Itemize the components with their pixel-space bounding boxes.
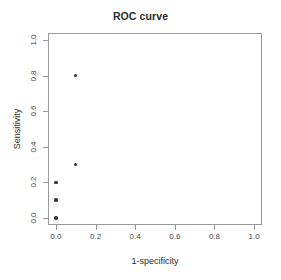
x-axis-tick (56, 225, 57, 230)
x-axis-label: 1-specificity (48, 256, 262, 266)
y-axis-tick-label: 0.8 (29, 70, 38, 81)
x-axis-tick (96, 225, 97, 230)
x-axis-tick (175, 225, 176, 230)
x-axis-tick (254, 225, 255, 230)
y-axis-tick (43, 40, 48, 41)
x-axis-tick-label: 0.4 (130, 232, 141, 241)
page-title: ROC curve (0, 10, 281, 22)
y-axis-tick-label: 0.2 (29, 177, 38, 188)
plot-frame (48, 33, 262, 225)
y-axis-tick-label: 0.4 (29, 141, 38, 152)
roc-curve-plot: ROC curve 0.00.20.40.60.81.0 0.00.20.40.… (0, 0, 281, 280)
x-axis-tick-label: 0.0 (50, 232, 61, 241)
x-axis-tick-label: 0.8 (209, 232, 220, 241)
x-axis-tick-label: 0.2 (90, 232, 101, 241)
y-axis-label: Sensitivity (12, 109, 22, 150)
x-axis-tick (135, 225, 136, 230)
y-axis-tick (43, 147, 48, 148)
x-axis-tick-label: 0.6 (169, 232, 180, 241)
x-axis-tick (214, 225, 215, 230)
y-axis-tick (43, 218, 48, 219)
y-axis-tick-label: 1.0 (29, 35, 38, 46)
y-axis-tick-label: 0.6 (29, 106, 38, 117)
y-axis-tick-label: 0.0 (29, 212, 38, 223)
x-axis-tick-label: 1.0 (249, 232, 260, 241)
y-axis-tick (43, 182, 48, 183)
y-axis-tick (43, 76, 48, 77)
y-axis-tick (43, 111, 48, 112)
